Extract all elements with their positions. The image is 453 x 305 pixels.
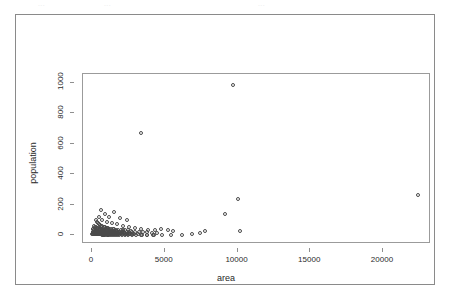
scatter-point — [103, 232, 107, 236]
scatter-point — [120, 230, 124, 234]
scatter-point — [121, 224, 125, 228]
scatter-point — [94, 231, 98, 235]
scatter-point — [126, 233, 130, 237]
scatter-point — [100, 224, 104, 228]
scatter-point — [125, 232, 129, 236]
scatter-point — [133, 226, 137, 230]
scatter-point — [106, 231, 110, 235]
scatter-point — [141, 230, 145, 234]
y-tick-mark — [70, 143, 74, 144]
scatter-point — [91, 227, 95, 231]
scatter-point — [111, 231, 115, 235]
scatter-point — [96, 226, 100, 230]
scatter-point — [114, 229, 118, 233]
x-tick-label: 5000 — [155, 255, 173, 264]
scatter-point — [104, 228, 108, 232]
scatter-point — [118, 232, 122, 236]
scatter-point — [92, 228, 96, 232]
x-tick-mark — [382, 248, 383, 252]
scatter-point — [125, 218, 129, 222]
scatter-point — [139, 233, 143, 237]
y-tick-mark — [70, 234, 74, 235]
scatter-point — [101, 232, 105, 236]
scatter-point — [171, 229, 175, 233]
scatter-point — [100, 218, 104, 222]
scatter-point — [113, 233, 117, 237]
scatter-point — [115, 222, 119, 226]
scatter-point — [98, 230, 102, 234]
scatter-point — [120, 231, 124, 235]
scatter-point — [97, 227, 101, 231]
scatter-point — [112, 227, 116, 231]
scatter-point — [103, 225, 107, 229]
scatter-point — [133, 230, 137, 234]
scatter-point — [152, 233, 156, 237]
scatter-point — [139, 227, 143, 231]
scatter-point — [105, 233, 109, 237]
scatter-point — [105, 228, 109, 232]
scatter-point — [111, 233, 115, 237]
scatter-point — [95, 231, 99, 235]
scatter-point — [130, 232, 134, 236]
scatter-point — [155, 231, 159, 235]
scatter-point — [150, 231, 154, 235]
scatter-point — [91, 230, 95, 234]
y-tick-mark — [70, 82, 74, 83]
scatter-point — [110, 221, 114, 225]
scatter-point — [104, 231, 108, 235]
scatter-point — [92, 231, 96, 235]
scatter-point — [111, 232, 115, 236]
scatter-point — [109, 233, 113, 237]
scatter-point — [98, 232, 102, 236]
scatter-point — [101, 233, 105, 237]
scatter-point — [105, 232, 109, 236]
scatter-point — [100, 227, 104, 231]
scatter-point — [97, 231, 101, 235]
scatter-point — [123, 233, 127, 237]
scatter-point — [93, 232, 97, 236]
scatter-point — [91, 232, 95, 236]
scatter-point — [127, 225, 131, 229]
scatter-point — [160, 233, 164, 237]
scatter-point — [95, 226, 99, 230]
x-tick-mark — [237, 248, 238, 252]
scatter-plot-screenshot: ... ... ... 05000100001500020000 0200400… — [0, 0, 453, 305]
scatter-point — [91, 230, 95, 234]
scatter-point — [100, 232, 104, 236]
x-tick-label: 10000 — [225, 255, 247, 264]
x-tick-label: 15000 — [298, 255, 320, 264]
scatter-point — [96, 221, 100, 225]
scatter-point — [107, 228, 111, 232]
scatter-point — [169, 233, 173, 237]
scatter-point — [91, 232, 95, 236]
y-axis-title: population — [28, 133, 38, 193]
scatter-point — [94, 231, 98, 235]
scatter-point — [416, 193, 420, 197]
scatter-points-layer — [83, 74, 429, 242]
scatter-point — [109, 227, 113, 231]
scatter-point — [108, 229, 112, 233]
scatter-point — [95, 232, 99, 236]
scatter-point — [107, 231, 111, 235]
scatter-point — [106, 228, 110, 232]
scatter-point — [106, 226, 110, 230]
y-tick-label: 0 — [56, 226, 65, 242]
scatter-point — [94, 232, 98, 236]
scatter-point — [132, 232, 136, 236]
scatter-point — [180, 233, 184, 237]
scatter-point — [109, 232, 113, 236]
ghost-text-strip: ... ... ... — [0, 0, 453, 12]
scatter-point — [145, 233, 149, 237]
scatter-point — [93, 229, 97, 233]
scatter-point — [99, 232, 103, 236]
scatter-point — [103, 228, 107, 232]
scatter-point — [129, 229, 133, 233]
scatter-point — [114, 232, 118, 236]
scatter-point — [120, 232, 124, 236]
scatter-point — [104, 232, 108, 236]
scatter-point — [103, 233, 107, 237]
scatter-point — [117, 233, 121, 237]
scatter-point — [98, 227, 102, 231]
y-tick-mark — [70, 112, 74, 113]
scatter-point — [116, 231, 120, 235]
